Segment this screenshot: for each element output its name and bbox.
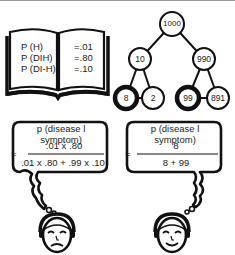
tree-right-right-label: 891 bbox=[205, 93, 231, 103]
smiling-face-icon bbox=[154, 214, 190, 252]
value-p-h: =.01 bbox=[74, 41, 93, 52]
left-bubble-equals: = bbox=[11, 148, 17, 159]
tree-left-left-label: 8 bbox=[113, 93, 139, 103]
right-bubble-denominator: 8 + 99 bbox=[134, 157, 218, 168]
tree-right-label: 990 bbox=[191, 54, 217, 64]
label-p-h: P (H) bbox=[21, 41, 56, 52]
label-p-d-given-not-h: P (DI-H) bbox=[21, 63, 56, 74]
left-bubble-numerator: .01 x .80 bbox=[24, 140, 104, 151]
right-bubble-equals: = bbox=[125, 148, 131, 159]
tree-right-left-label: 99 bbox=[175, 93, 201, 103]
value-p-d-given-not-h: =.10 bbox=[74, 63, 93, 74]
tree-left-right-label: 2 bbox=[140, 93, 166, 103]
tree-root-label: 1000 bbox=[159, 19, 185, 28]
value-p-d-given-h: =.80 bbox=[74, 52, 93, 63]
book-probability-values: =.01 =.80 =.10 bbox=[74, 41, 93, 74]
book-probability-labels: P (H) P (DIH) P (DI-H) bbox=[21, 41, 56, 74]
label-p-d-given-h: P (DIH) bbox=[21, 52, 56, 63]
right-bubble-numerator: 8 bbox=[134, 140, 218, 151]
frowning-face-icon bbox=[39, 214, 75, 252]
left-bubble-denominator: .01 x .80 + .99 x .10 bbox=[18, 157, 108, 168]
tree-left-label: 10 bbox=[127, 54, 153, 64]
